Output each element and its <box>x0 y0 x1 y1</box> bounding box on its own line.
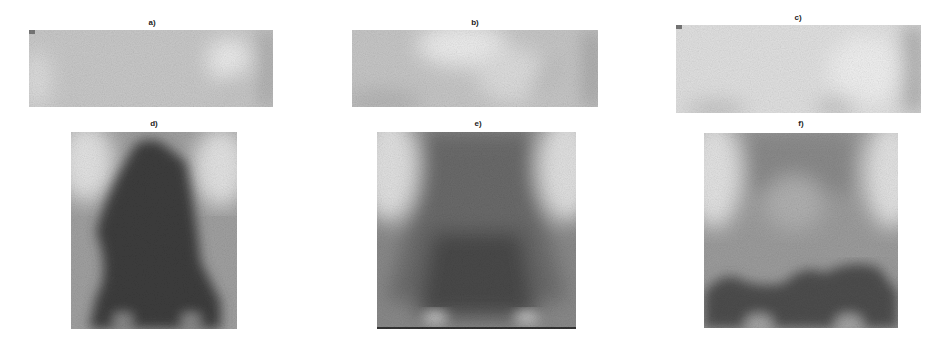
panel-label-e: e) <box>474 120 481 128</box>
panel-label-b: b) <box>471 19 479 27</box>
xray-panel-a <box>29 30 273 107</box>
xray-panel-d <box>71 132 237 329</box>
panel-label-f: f) <box>798 120 803 128</box>
panel-label-c: c) <box>794 14 801 22</box>
panel-label-d: d) <box>150 120 158 128</box>
xray-panel-e <box>377 132 576 329</box>
panel-label-a: a) <box>148 19 155 27</box>
xray-panel-b <box>352 30 598 107</box>
xray-panel-c <box>676 25 921 113</box>
xray-panel-f <box>704 133 898 328</box>
